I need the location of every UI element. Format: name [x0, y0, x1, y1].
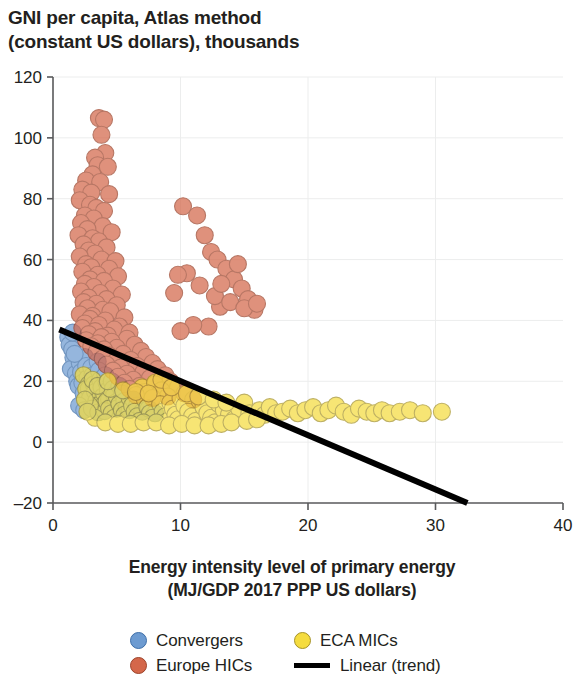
- series-points-europe-hics: [70, 110, 266, 408]
- legend-label: ECA MICs: [320, 631, 398, 651]
- svg-text:40: 40: [554, 516, 573, 535]
- svg-text:60: 60: [23, 251, 42, 270]
- legend-label: Convergers: [156, 631, 243, 651]
- legend-marker-icon: [130, 657, 147, 674]
- legend-label: Europe HICs: [156, 656, 252, 676]
- legend-marker-icon: [294, 632, 311, 649]
- x-axis-title: Energy intensity level of primary energy…: [0, 556, 584, 602]
- svg-text:40: 40: [23, 311, 42, 330]
- legend-trend-line-swatch: [294, 663, 330, 668]
- svg-text:–20: –20: [14, 494, 42, 513]
- legend-marker-icon: [130, 632, 147, 649]
- svg-text:100: 100: [14, 129, 42, 148]
- legend-item-linear-trend[interactable]: Linear (trend): [294, 656, 550, 676]
- legend-item-eca-mics[interactable]: ECA MICs: [294, 631, 550, 651]
- svg-text:0: 0: [48, 516, 57, 535]
- legend-item-convergers[interactable]: Convergers: [130, 631, 280, 651]
- legend-label: Linear (trend): [340, 656, 441, 676]
- chart-figure: GNI per capita, Atlas method (constant U…: [0, 0, 584, 680]
- svg-text:120: 120: [14, 68, 42, 87]
- svg-text:20: 20: [23, 372, 42, 391]
- svg-text:10: 10: [171, 516, 190, 535]
- svg-text:30: 30: [426, 516, 445, 535]
- scatter-plot: 120100806040200–20010203040: [0, 0, 584, 560]
- svg-text:80: 80: [23, 190, 42, 209]
- chart-legend: ConvergersECA MICsEurope HICsLinear (tre…: [130, 628, 550, 678]
- svg-text:0: 0: [33, 433, 42, 452]
- svg-text:20: 20: [299, 516, 318, 535]
- legend-item-europe-hics[interactable]: Europe HICs: [130, 656, 280, 676]
